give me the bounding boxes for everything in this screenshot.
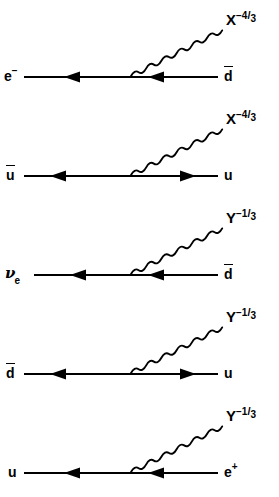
- boson-charge-denominator: 3: [250, 112, 256, 123]
- incoming-particle-label-1: e−: [4, 69, 18, 83]
- boson-wavy-line: [131, 228, 222, 274]
- outgoing-particle-label-4: u: [224, 366, 233, 380]
- arrow-incoming-right: [64, 72, 80, 83]
- arrow-outgoing-right: [180, 171, 196, 182]
- arrow-incoming-left: [50, 171, 66, 182]
- boson-label-3: Y−1/3: [226, 210, 256, 225]
- arrow-outgoing-left: [148, 72, 164, 83]
- boson-charge: −4/3: [236, 109, 256, 120]
- outgoing-symbol: u: [224, 366, 233, 380]
- boson-wavy-line: [131, 426, 222, 472]
- outgoing-superscript: +: [232, 461, 238, 472]
- outgoing-particle-label-1: d: [224, 69, 233, 83]
- boson-charge: −1/3: [236, 406, 256, 417]
- boson-symbol: X: [226, 11, 236, 28]
- boson-charge-denominator: 3: [250, 211, 256, 222]
- arrow-outgoing-left: [148, 468, 164, 479]
- arrow-incoming-left: [50, 369, 66, 380]
- boson-label-1: X−4/3: [226, 12, 256, 27]
- boson-label-5: Y−1/3: [226, 408, 256, 423]
- outgoing-particle-label-3: d: [224, 267, 233, 281]
- arrow-outgoing-left: [148, 270, 164, 281]
- arrow-incoming-right: [70, 270, 86, 281]
- feynman-diagram-5: u e+ Y−1/3: [0, 396, 279, 495]
- feynman-diagram-1: e− d X−4/3: [0, 0, 279, 99]
- boson-wavy-line: [131, 129, 222, 175]
- incoming-symbol: d: [6, 366, 15, 380]
- incoming-subscript: e: [14, 275, 20, 286]
- boson-symbol: Y: [226, 209, 236, 226]
- boson-label-2: X−4/3: [226, 111, 256, 126]
- boson-symbol: Y: [226, 407, 236, 424]
- incoming-particle-label-3: νe: [5, 266, 21, 281]
- incoming-particle-label-2: u: [6, 168, 15, 182]
- boson-wavy-line: [131, 30, 222, 76]
- boson-wavy-line: [131, 327, 222, 373]
- feynman-diagram-figure: e− d X−4/3 u u X−4/3: [0, 0, 279, 497]
- boson-charge: −4/3: [236, 10, 256, 21]
- incoming-symbol: e: [4, 69, 12, 83]
- incoming-particle-label-5: u: [8, 465, 17, 479]
- boson-charge: −1/3: [236, 208, 256, 219]
- boson-symbol: Y: [226, 308, 236, 325]
- outgoing-symbol: d: [224, 267, 233, 281]
- feynman-diagram-3: νe d Y−1/3: [0, 198, 279, 297]
- boson-label-4: Y−1/3: [226, 309, 256, 324]
- arrow-outgoing-right: [180, 369, 196, 380]
- outgoing-symbol: d: [224, 69, 233, 83]
- arrow-incoming-right: [64, 468, 80, 479]
- boson-charge-denominator: 3: [250, 13, 256, 24]
- boson-symbol: X: [226, 110, 236, 127]
- feynman-diagram-2: u u X−4/3: [0, 99, 279, 198]
- incoming-particle-label-4: d: [6, 366, 15, 380]
- incoming-superscript: −: [12, 65, 18, 76]
- outgoing-symbol: e: [224, 465, 232, 479]
- boson-charge-denominator: 3: [250, 409, 256, 420]
- boson-charge-denominator: 3: [250, 310, 256, 321]
- incoming-symbol: u: [8, 465, 17, 479]
- incoming-symbol: u: [6, 168, 15, 182]
- outgoing-particle-label-2: u: [224, 168, 233, 182]
- outgoing-particle-label-5: e+: [224, 465, 238, 479]
- outgoing-symbol: u: [224, 168, 233, 182]
- boson-charge: −1/3: [236, 307, 256, 318]
- feynman-diagram-4: d u Y−1/3: [0, 297, 279, 396]
